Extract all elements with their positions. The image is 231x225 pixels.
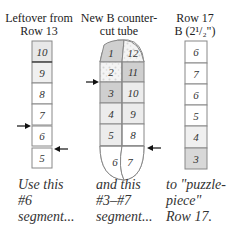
arrow-left-icon bbox=[54, 146, 68, 152]
row17-seg-6a: 6 bbox=[193, 46, 199, 58]
tube-seg-10: 10 bbox=[128, 87, 140, 99]
tube-caption-line1: and this bbox=[96, 177, 152, 193]
tube-seg-7: 7 bbox=[127, 156, 133, 168]
row17-seg-3: 3 bbox=[192, 153, 199, 165]
leftover-seg-8: 8 bbox=[39, 88, 45, 100]
tube-seg-1: 1 bbox=[108, 47, 114, 59]
tube-caption: and this #3–#7 segment... bbox=[96, 177, 152, 225]
leftover-strip bbox=[32, 41, 52, 168]
leftover-caption-line1: Use this bbox=[18, 177, 74, 193]
row17-caption-line1: to "puzzle- bbox=[166, 177, 226, 193]
row17-seg-5: 5 bbox=[193, 110, 199, 122]
tube-seg-9: 9 bbox=[130, 108, 136, 120]
leftover-seg-6: 6 bbox=[39, 130, 45, 142]
tube-seg-2: 2 bbox=[108, 66, 114, 78]
leftover-seg-10: 10 bbox=[37, 46, 49, 58]
tube-caption-line2: #3–#7 bbox=[96, 193, 152, 209]
leftover-caption: Use this #6 segment... bbox=[18, 177, 74, 225]
leftover-caption-line3: segment... bbox=[18, 209, 74, 225]
row17-strip bbox=[185, 41, 207, 169]
leftover-caption-line2: #6 bbox=[18, 193, 74, 209]
leftover-seg-7: 7 bbox=[39, 109, 45, 121]
arrow-right-icon bbox=[86, 79, 99, 85]
row17-caption-line2: piece" bbox=[166, 193, 226, 209]
tube-seg-5: 5 bbox=[108, 129, 114, 141]
row17-caption: to "puzzle- piece" Row 17. bbox=[166, 177, 226, 225]
countercut-tube bbox=[100, 40, 144, 180]
tube-caption-line3: segment... bbox=[96, 209, 152, 225]
tube-seg-12: 12 bbox=[128, 47, 140, 59]
arrow-right-icon bbox=[17, 123, 31, 129]
tube-seg-11: 11 bbox=[128, 66, 138, 78]
tube-seg-8: 8 bbox=[130, 129, 136, 141]
tube-seg-4: 4 bbox=[108, 108, 114, 120]
arrow-left-icon bbox=[147, 145, 161, 151]
leftover-seg-5: 5 bbox=[39, 152, 45, 164]
row17-seg-7: 7 bbox=[193, 68, 199, 80]
row17-seg-6b: 6 bbox=[193, 89, 199, 101]
row17-caption-line3: Row 17. bbox=[166, 209, 226, 225]
tube-seg-3: 3 bbox=[107, 87, 114, 99]
row17-seg-4: 4 bbox=[193, 131, 199, 143]
tube-seg-6: 6 bbox=[112, 156, 118, 168]
leftover-seg-9: 9 bbox=[39, 67, 45, 79]
